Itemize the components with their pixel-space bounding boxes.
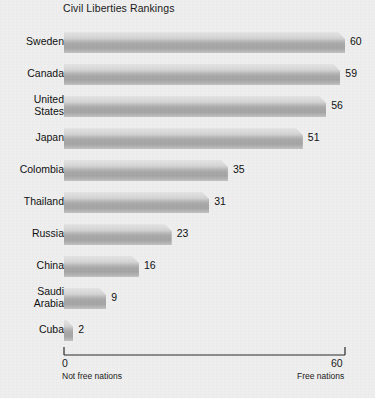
bar (64, 224, 172, 245)
axis-tick-label-max: 60 (331, 357, 343, 369)
chart-title: Civil Liberties Rankings (63, 2, 175, 14)
bar (64, 64, 340, 85)
bar (64, 192, 209, 213)
category-label: Sweden (0, 36, 64, 48)
bar-row: Colombia35 (0, 156, 375, 188)
bar-row: China16 (0, 252, 375, 284)
category-label: Cuba (0, 324, 64, 336)
bar-value-label: 23 (177, 227, 189, 239)
bar-value-label: 56 (331, 99, 343, 111)
bar-row: Saudi Arabia9 (0, 284, 375, 316)
plot-area: Sweden60Canada59United States56Japan51Co… (0, 28, 375, 348)
category-label: Colombia (0, 164, 64, 176)
category-label: United States (0, 94, 64, 117)
bar-row: Japan51 (0, 124, 375, 156)
bar-row: Sweden60 (0, 28, 375, 60)
bar-value-label: 2 (78, 323, 84, 335)
bar-value-label: 59 (345, 67, 357, 79)
bar-value-label: 9 (111, 291, 117, 303)
bar (64, 256, 139, 277)
axis-caption-left: Not free nations (62, 371, 122, 381)
bar (64, 320, 73, 341)
bar-value-label: 31 (214, 195, 226, 207)
bar-value-label: 60 (350, 35, 362, 47)
bar-value-label: 16 (144, 259, 156, 271)
bar (64, 96, 326, 117)
category-label: Thailand (0, 196, 64, 208)
bar-row: Cuba2 (0, 316, 375, 348)
bar (64, 128, 303, 149)
category-label: Canada (0, 68, 64, 80)
bar (64, 288, 106, 309)
bar-row: Canada59 (0, 60, 375, 92)
bar (64, 160, 228, 181)
axis-tick-label-min: 0 (62, 357, 68, 369)
category-label: Saudi Arabia (0, 286, 64, 309)
bar-value-label: 35 (233, 163, 245, 175)
category-label: Japan (0, 132, 64, 144)
axis-caption-right: Free nations (297, 371, 344, 381)
bar (64, 32, 345, 53)
category-label: Russia (0, 228, 64, 240)
bar-row: Thailand31 (0, 188, 375, 220)
axis-line (64, 347, 345, 355)
category-label: China (0, 260, 64, 272)
bar-value-label: 51 (308, 131, 320, 143)
chart-container: Civil Liberties Rankings Sweden60Canada5… (0, 0, 375, 398)
bar-row: United States56 (0, 92, 375, 124)
bar-row: Russia23 (0, 220, 375, 252)
